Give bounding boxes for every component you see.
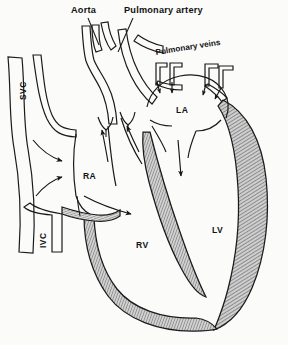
- label-svc: SVC: [18, 81, 28, 100]
- heart-diagram-svg: Aorta Pulmonary artery Pulmonary veins S…: [0, 0, 288, 345]
- label-right-atrium: RA: [83, 171, 96, 181]
- label-left-atrium: LA: [176, 105, 188, 115]
- label-right-ventricle: RV: [136, 240, 149, 250]
- label-left-ventricle: LV: [212, 225, 223, 235]
- label-ivc: IVC: [38, 233, 48, 248]
- heart-diagram-figure: Aorta Pulmonary artery Pulmonary veins S…: [0, 0, 288, 345]
- label-aorta: Aorta: [71, 5, 97, 15]
- label-pulmonary-artery: Pulmonary artery: [124, 5, 203, 15]
